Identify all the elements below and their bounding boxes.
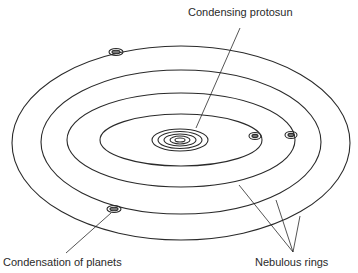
planets-leader-line: [66, 213, 111, 253]
protosun-label: Condensing protosun: [188, 6, 293, 18]
protosun-icon: [152, 129, 208, 151]
planet-condensation-icon: [249, 133, 261, 140]
planets-label: Condensation of planets: [3, 256, 122, 268]
protosun-leader-line: [196, 28, 240, 128]
planet-condensation-icon: [107, 206, 121, 213]
nebulous-ring-inner: [100, 114, 262, 166]
planet-condensation-icon: [285, 132, 297, 139]
nebulous-ring-3: [67, 93, 295, 187]
nebular-diagram: [0, 0, 358, 273]
rings-leader-line-3: [293, 216, 300, 252]
rings-label: Nebulous rings: [255, 256, 328, 268]
nebulous-ring-outer: [12, 46, 350, 240]
rings-leader-line-2: [276, 200, 293, 252]
rings-leader-line-1: [239, 185, 293, 252]
